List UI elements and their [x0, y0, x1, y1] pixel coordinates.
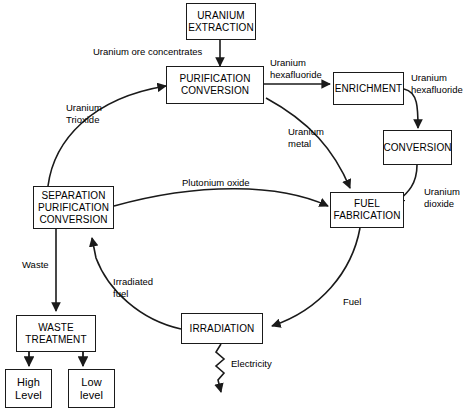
node-irradiation-label: IRRADIATION	[190, 323, 255, 335]
node-separation-purification-conversion-label: SEPARATION PURIFICATION CONVERSION	[38, 190, 109, 226]
node-conversion: CONVERSION	[383, 130, 452, 165]
node-waste-treatment-label: WASTE TREATMENT	[25, 322, 86, 346]
edge-label-fuel: Fuel	[343, 296, 361, 308]
edge-fuel-fabrication-to-irradiation	[272, 228, 360, 326]
node-purification-conversion-label: PURIFICATION CONVERSION	[179, 73, 250, 97]
edge-label-waste: Waste	[22, 259, 49, 271]
node-uranium-extraction-label: URANIUM EXTRACTION	[188, 10, 253, 34]
node-purification-conversion: PURIFICATION CONVERSION	[166, 66, 264, 104]
fuel-cycle-diagram: URANIUM EXTRACTION PURIFICATION CONVERSI…	[0, 0, 472, 411]
node-separation-purification-conversion: SEPARATION PURIFICATION CONVERSION	[33, 186, 114, 229]
edge-label-uranium-hexafluoride-right: Uranium hexafluoride	[411, 72, 463, 95]
node-enrichment-label: ENRICHMENT	[335, 83, 403, 95]
edge-label-irradiated-fuel: Irradiated fuel	[113, 276, 153, 299]
edge-label-plutonium-oxide: Plutonium oxide	[182, 177, 250, 189]
node-irradiation: IRRADIATION	[181, 313, 263, 344]
edge-irradiation-electricity	[216, 344, 224, 392]
edge-separation-to-fuel-fabrication	[114, 189, 328, 206]
node-waste-treatment: WASTE TREATMENT	[16, 315, 96, 352]
node-low-level-label: Low level	[80, 376, 103, 402]
edge-separation-to-purification	[48, 86, 166, 186]
node-conversion-label: CONVERSION	[383, 142, 451, 154]
node-high-level-label: High Level	[15, 376, 42, 402]
edge-label-uranium-dioxide: Uranium dioxide	[424, 186, 460, 209]
node-enrichment: ENRICHMENT	[333, 72, 404, 105]
edge-label-ore-concentrates: Uranium ore concentrates	[93, 46, 202, 58]
edge-label-electricity: Electricity	[231, 358, 272, 370]
node-uranium-extraction: URANIUM EXTRACTION	[186, 3, 256, 40]
edge-label-uranium-trioxide: Uranium Trioxide	[66, 102, 102, 125]
edge-label-uranium-metal: Uranium metal	[288, 126, 324, 149]
node-high-level: High Level	[5, 369, 52, 408]
node-low-level: Low level	[68, 369, 115, 408]
edge-label-uranium-hexafluoride-left: Uranium hexafluoride	[270, 57, 322, 80]
node-fuel-fabrication-label: FUEL FABRICATION	[333, 198, 400, 222]
node-fuel-fabrication: FUEL FABRICATION	[330, 192, 404, 228]
